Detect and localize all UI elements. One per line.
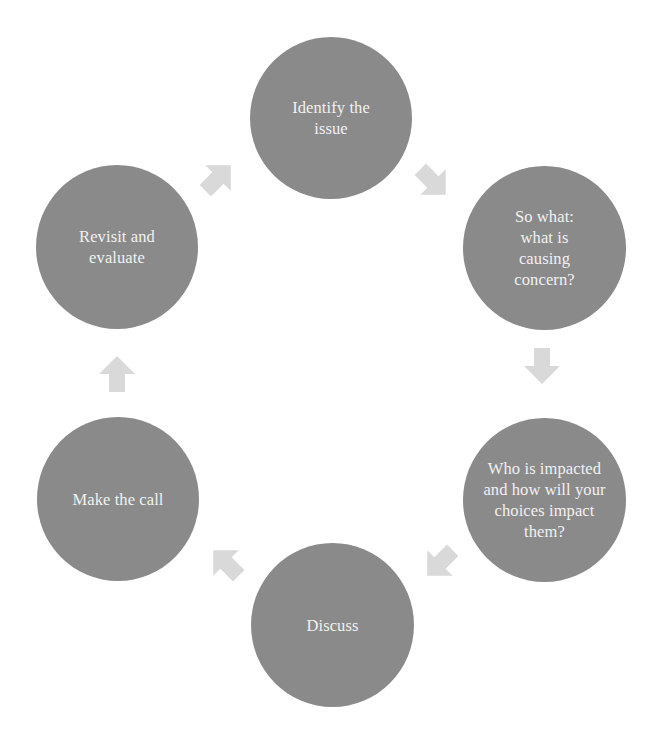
cycle-diagram: Identify the issue So what: what is caus…: [0, 0, 658, 744]
arrow-up-right-icon: [190, 150, 247, 207]
node-revisit-and-evaluate: Revisit and evaluate: [36, 165, 198, 329]
node-label: Revisit and evaluate: [66, 226, 168, 268]
node-label: Make the call: [72, 489, 163, 510]
node-who-is-impacted: Who is impacted and how will your choice…: [463, 418, 626, 582]
arrow-down-icon: [522, 346, 562, 386]
arrow-up-left-icon: [198, 535, 255, 592]
arrow-up-icon: [97, 354, 137, 394]
node-label: Discuss: [306, 615, 358, 636]
arrow-down-left-icon: [412, 535, 469, 592]
node-label: So what: what is causing concern?: [501, 206, 588, 290]
node-make-the-call: Make the call: [37, 417, 199, 581]
node-discuss: Discuss: [251, 543, 414, 707]
node-so-what: So what: what is causing concern?: [463, 166, 626, 330]
node-label: Who is impacted and how will your choice…: [477, 458, 612, 542]
arrow-down-right-icon: [405, 154, 462, 211]
node-label: Identify the issue: [280, 97, 382, 139]
node-identify-the-issue: Identify the issue: [250, 37, 412, 199]
